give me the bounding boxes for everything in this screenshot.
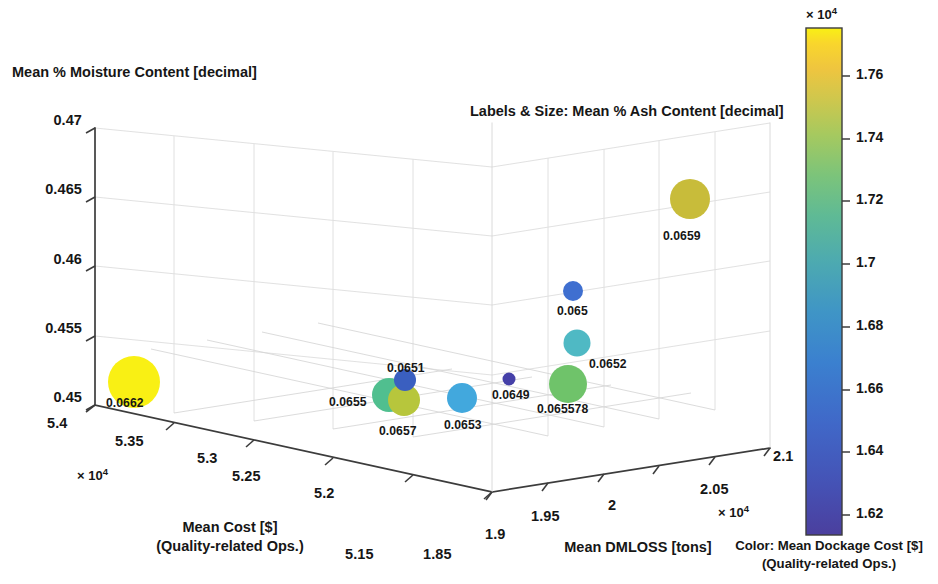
- y-tick-0: 1.85: [423, 546, 452, 562]
- bubble-marker: [549, 365, 587, 403]
- colorbar-exponent-mantissa: × 10: [806, 7, 832, 22]
- bubble-data-label: 0.0655: [329, 396, 367, 410]
- bubble-data-label: 0.0653: [444, 419, 482, 433]
- colorbar-tick-4: 1.68: [856, 318, 883, 334]
- z-tick-3: 0.455: [30, 320, 82, 336]
- x-tick-4: 5.2: [314, 485, 334, 501]
- y-exponent-power: 4: [744, 503, 749, 514]
- z-tick-1: 0.465: [30, 181, 82, 197]
- y-axis-exponent: × 104: [718, 506, 749, 521]
- x-tick-0: 5.4: [47, 415, 67, 431]
- y-tick-4: 2.05: [700, 481, 729, 497]
- bubble-marker: [564, 330, 591, 357]
- z-tick-0: 0.47: [48, 112, 82, 128]
- bubble-data-label: 0.0649: [492, 389, 530, 403]
- x-tick-5: 5.15: [345, 546, 374, 562]
- bubble-marker: [563, 281, 583, 301]
- y-tick-1: 1.9: [485, 526, 505, 542]
- x-tick-1: 5.35: [115, 433, 144, 449]
- figure-canvas: 0.06620.06590.0650.06520.0655780.06490.0…: [0, 0, 938, 584]
- axes-3d: [0, 0, 938, 584]
- y-tick-2: 1.95: [531, 508, 560, 524]
- bubble-marker: [447, 383, 477, 413]
- colorbar-tick-7: 1.62: [856, 506, 883, 522]
- colorbar-title-line1: Color: Mean Dockage Cost [$]: [720, 538, 938, 554]
- bubble-data-label: 0.0659: [663, 230, 701, 244]
- x-exponent-mantissa: × 10: [77, 468, 103, 483]
- colorbar-tick-5: 1.66: [856, 381, 883, 397]
- x-axis-title-line2: (Quality-related Ops.): [130, 538, 330, 554]
- colorbar-title-line2: (Quality-related Ops.): [720, 556, 938, 572]
- plot-title: Labels & Size: Mean % Ash Content [decim…: [470, 103, 784, 119]
- colorbar-exponent-power: 4: [832, 5, 837, 16]
- y-axis-title: Mean DMLOSS [tons]: [543, 539, 733, 555]
- z-tick-4: 0.45: [38, 389, 82, 405]
- colorbar-tick-3: 1.7: [856, 255, 875, 271]
- z-tick-2: 0.46: [42, 251, 82, 267]
- bubble-data-label: 0.0657: [379, 425, 417, 439]
- y-tick-3: 2: [608, 497, 616, 513]
- bubble-marker: [503, 373, 516, 386]
- x-tick-2: 5.3: [197, 450, 217, 466]
- z-axis-title: Mean % Moisture Content [decimal]: [12, 64, 257, 80]
- colorbar-tick-1: 1.74: [856, 130, 883, 146]
- colorbar-tick-0: 1.76: [856, 67, 883, 83]
- bubble-data-label: 0.0652: [589, 358, 627, 372]
- x-axis-title-line1: Mean Cost [$]: [140, 519, 320, 535]
- bubble-marker: [670, 179, 710, 219]
- y-tick-5: 2.1: [773, 448, 793, 464]
- x-exponent-power: 4: [103, 466, 108, 477]
- colorbar-exponent: × 104: [806, 8, 837, 23]
- colorbar-tick-2: 1.72: [856, 192, 883, 208]
- x-axis-exponent: × 104: [77, 469, 108, 484]
- bubble-data-label: 0.065578: [537, 403, 588, 417]
- y-exponent-mantissa: × 10: [718, 505, 744, 520]
- bubble-data-label: 0.0651: [387, 362, 425, 376]
- x-tick-3: 5.25: [232, 468, 261, 484]
- colorbar-tick-6: 1.64: [856, 443, 883, 459]
- bubble-data-label: 0.0662: [106, 397, 144, 411]
- bubble-data-label: 0.065: [557, 305, 588, 319]
